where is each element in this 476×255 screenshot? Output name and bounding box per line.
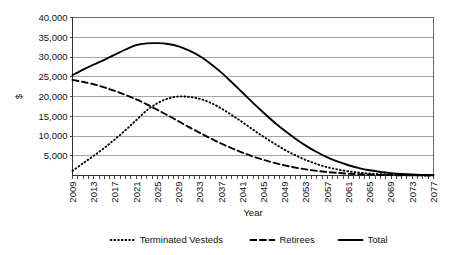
x-tick-label: 2057 [322,182,333,203]
chart-legend: Terminated VestedsRetireesTotal [111,234,388,245]
line-chart: 40,00035,00030,00025,00020,00015,00010,0… [0,0,476,255]
y-axis-title: $ [13,93,24,99]
y-tick-label: 30,000 [38,51,67,62]
x-tick-label: 2017 [109,182,120,203]
y-axis-tick-labels: 40,00035,00030,00025,00020,00015,00010,0… [38,12,72,161]
series-line-total [73,43,434,175]
y-tick-label: 20,000 [38,91,67,102]
x-tick-label: 2029 [173,182,184,203]
legend-label: Terminated Vesteds [140,234,224,245]
x-axis-tick-labels: 2009201320172021202520292033203720412045… [67,182,439,203]
x-tick-label: 2049 [279,182,290,203]
x-tick-label: 2061 [343,182,354,203]
y-tick-label: 40,000 [38,12,67,23]
chart-container: 40,00035,00030,00025,00020,00015,00010,0… [0,0,476,255]
legend-item[interactable]: Total [339,234,388,245]
x-tick-label: 2073 [407,182,418,203]
x-axis-title: Year [243,207,262,218]
x-tick-label: 2037 [216,182,227,203]
x-tick-label: 2033 [194,182,205,203]
y-tick-label: 10,000 [38,130,67,141]
x-tick-label: 2077 [428,182,439,203]
legend-label: Total [368,234,388,245]
legend-item[interactable]: Retirees [250,234,315,245]
y-tick-label: 15,000 [38,111,67,122]
series-line-retirees [73,80,434,176]
x-tick-label: 2025 [152,182,163,203]
y-tick-label: 5,000 [44,150,68,161]
y-tick-label: 35,000 [38,32,67,43]
x-tick-label: 2009 [67,182,78,203]
legend-item[interactable]: Terminated Vesteds [111,234,224,245]
x-tick-label: 2021 [131,182,142,203]
x-tick-label: 2045 [258,182,269,203]
x-tick-label: 2053 [300,182,311,203]
x-tick-label: 2065 [364,182,375,203]
x-tick-label: 2041 [237,182,248,203]
y-tick-label: 25,000 [38,71,67,82]
x-tick-label: 2069 [385,182,396,203]
legend-label: Retirees [279,234,315,245]
x-tick-label: 2013 [88,182,99,203]
gridlines [73,18,434,156]
